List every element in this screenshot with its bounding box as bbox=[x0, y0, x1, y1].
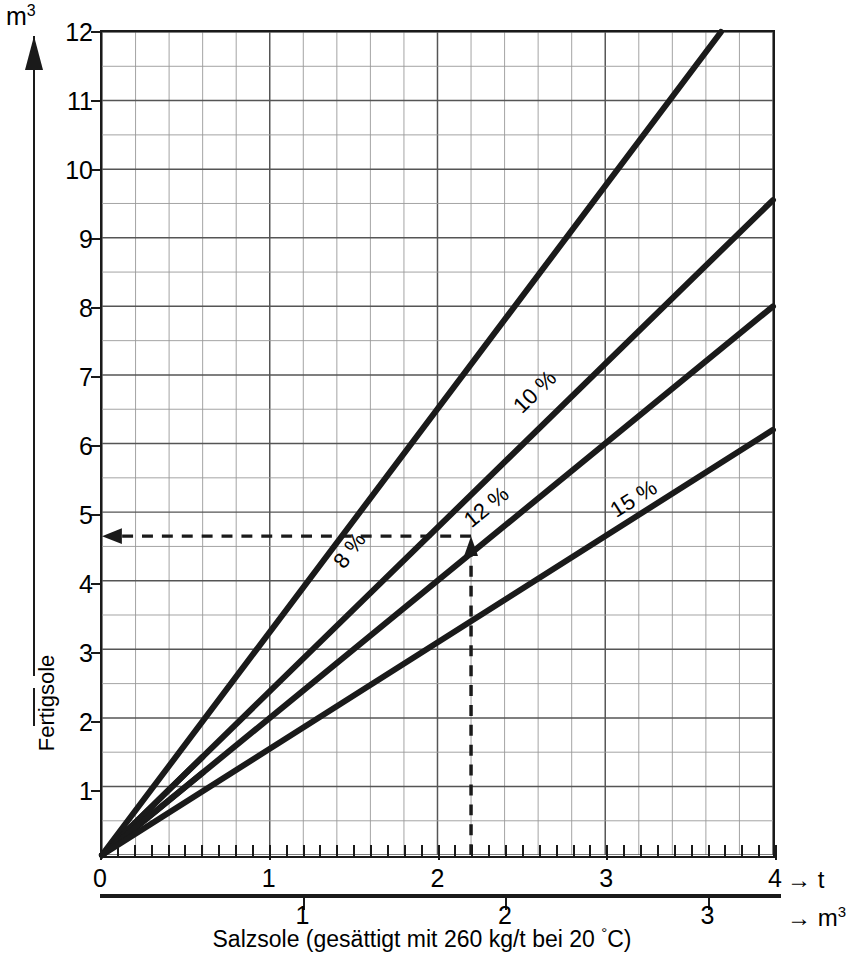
x-tick-mark-t bbox=[522, 845, 524, 858]
x-tick-mark-t bbox=[606, 845, 608, 860]
x-tick-mark-t bbox=[691, 845, 693, 858]
x-tick-mark-t bbox=[235, 845, 237, 858]
x-tick-label-t: 1 bbox=[262, 866, 276, 891]
plot-area: 123456789101112 8 %10 %12 %15 % bbox=[100, 30, 775, 858]
x-tick-mark-t bbox=[117, 845, 119, 858]
y-tick-mark bbox=[91, 31, 102, 33]
y-tick-label: 2 bbox=[33, 710, 93, 735]
y-tick-mark bbox=[91, 721, 102, 723]
y-tick-mark bbox=[91, 445, 102, 447]
curve-layer bbox=[102, 32, 773, 855]
y-tick-mark bbox=[91, 100, 102, 102]
x-tick-mark-t bbox=[438, 845, 440, 860]
x-tick-mark-t bbox=[724, 845, 726, 858]
y-tick-mark bbox=[91, 514, 102, 516]
x-tick-mark-t bbox=[758, 845, 760, 858]
y-tick-label: 12 bbox=[33, 20, 93, 45]
y-tick-label: 9 bbox=[33, 227, 93, 252]
y-tick-label: 1 bbox=[33, 779, 93, 804]
x-tick-mark-t bbox=[471, 845, 473, 858]
y-tick-label: 5 bbox=[33, 503, 93, 528]
y-tick-label: 7 bbox=[33, 365, 93, 390]
x-tick-mark-t bbox=[286, 845, 288, 858]
x-tick-mark-t bbox=[488, 845, 490, 858]
x-tick-mark-t bbox=[589, 845, 591, 858]
x-tick-mark-t bbox=[336, 845, 338, 858]
x-tick-mark-t bbox=[657, 845, 659, 858]
x-tick-mark-t bbox=[201, 845, 203, 858]
y-tick-mark bbox=[91, 652, 102, 654]
x-tick-mark-t bbox=[303, 845, 305, 858]
y-tick-label: 6 bbox=[33, 434, 93, 459]
y-tick-label: 8 bbox=[33, 296, 93, 321]
x-axis-caption: Salzsole (gesättigt mit 260 kg/t bei 20 … bbox=[0, 924, 844, 953]
y-tick-label: 11 bbox=[33, 89, 93, 114]
y-axis-unit-title: m3 bbox=[6, 2, 36, 31]
x-tick-mark-t bbox=[708, 845, 710, 858]
x-tick-mark-t bbox=[556, 845, 558, 858]
x-tick-label-t: 2 bbox=[431, 866, 445, 891]
x-tick-mark-t bbox=[421, 845, 423, 858]
y-tick-mark bbox=[91, 238, 102, 240]
x-tick-mark-t bbox=[775, 845, 777, 860]
y-tick-label: 10 bbox=[33, 158, 93, 183]
x-tick-mark-t bbox=[404, 845, 406, 858]
x-tick-mark-t bbox=[623, 845, 625, 858]
x-tick-mark-t bbox=[454, 845, 456, 858]
x-tick-mark-t bbox=[151, 845, 153, 858]
x-tick-mark-t bbox=[319, 845, 321, 858]
x-tick-mark-t bbox=[505, 845, 507, 858]
x-axis-t-rule bbox=[100, 894, 781, 898]
x-tick-mark-t bbox=[184, 845, 186, 858]
x-tick-mark-t bbox=[674, 845, 676, 858]
y-tick-mark bbox=[91, 169, 102, 171]
x-tick-label-t: 3 bbox=[599, 866, 613, 891]
x-tick-mark-t bbox=[640, 845, 642, 858]
y-tick-mark bbox=[91, 307, 102, 309]
x-tick-mark-t bbox=[741, 845, 743, 858]
x-tick-mark-t bbox=[539, 845, 541, 858]
x-tick-label-t: 4 bbox=[768, 866, 782, 891]
y-tick-label: 3 bbox=[33, 641, 93, 666]
y-tick-mark bbox=[91, 583, 102, 585]
x-tick-mark-t bbox=[218, 845, 220, 858]
y-tick-mark bbox=[91, 376, 102, 378]
x-axis-t-unit: → t bbox=[787, 866, 824, 894]
x-tick-mark-t bbox=[353, 845, 355, 858]
x-tick-mark-t bbox=[269, 845, 271, 860]
x-tick-mark-t bbox=[573, 845, 575, 858]
x-tick-mark-t bbox=[100, 845, 102, 860]
x-tick-label-t: 0 bbox=[93, 866, 107, 891]
x-tick-mark-t bbox=[370, 845, 372, 858]
y-tick-mark bbox=[91, 790, 102, 792]
x-tick-mark-t bbox=[134, 845, 136, 858]
x-tick-mark-t bbox=[168, 845, 170, 858]
x-tick-mark-t bbox=[387, 845, 389, 858]
x-tick-mark-t bbox=[252, 845, 254, 858]
y-tick-label: 4 bbox=[33, 572, 93, 597]
